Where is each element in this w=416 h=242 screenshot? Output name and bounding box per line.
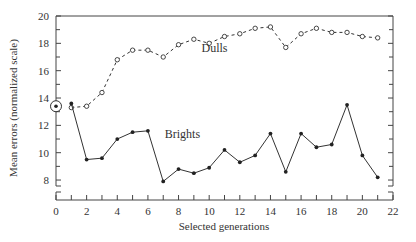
series-line (71, 103, 377, 181)
y-tick-label: 14 (38, 92, 50, 104)
series-label: Brights (165, 127, 201, 141)
data-point (253, 26, 257, 30)
data-point (330, 30, 334, 34)
data-point (238, 32, 242, 36)
data-point (223, 148, 227, 152)
data-point (268, 25, 272, 29)
x-axis-title: Selected generations (179, 220, 270, 232)
x-tick-label: 6 (145, 205, 151, 217)
y-tick-label: 10 (38, 147, 50, 159)
data-point (299, 132, 303, 136)
data-point (69, 102, 73, 106)
series-brights: Brights (69, 102, 379, 184)
y-tick-label: 8 (44, 174, 50, 186)
x-tick-label: 4 (115, 205, 121, 217)
start-point-dot (54, 104, 58, 108)
x-tick-label: 0 (53, 205, 59, 217)
data-point (177, 167, 181, 171)
x-tick-label: 12 (234, 205, 245, 217)
x-axis: 0246810121416182022 (53, 195, 398, 217)
data-point (100, 90, 104, 94)
data-point (192, 37, 196, 41)
data-point (146, 129, 150, 133)
x-tick-label: 20 (357, 205, 369, 217)
data-point (360, 34, 364, 38)
data-point (375, 36, 379, 40)
data-point (131, 130, 135, 134)
data-point (130, 48, 134, 52)
data-point (269, 132, 273, 136)
series-group: DullsBrights (51, 25, 380, 184)
y-tick-label: 18 (38, 37, 50, 49)
data-point (115, 58, 119, 62)
series-dulls: Dulls (69, 25, 380, 110)
data-point (299, 32, 303, 36)
data-point (284, 45, 288, 49)
data-point (314, 26, 318, 30)
x-tick-label: 14 (265, 205, 277, 217)
y-tick-label: 16 (38, 65, 50, 77)
data-point (176, 43, 180, 47)
data-point (360, 154, 364, 158)
y-tick-label: 20 (38, 10, 50, 22)
data-point (238, 160, 242, 164)
data-point (345, 103, 349, 107)
data-point (207, 166, 211, 170)
x-tick-label: 16 (296, 205, 308, 217)
data-point (284, 170, 288, 174)
data-point (146, 48, 150, 52)
data-point (253, 154, 257, 158)
data-point (376, 175, 380, 179)
x-tick-label: 2 (84, 205, 90, 217)
data-point (192, 171, 196, 175)
line-chart: 8101214161820 0246810121416182022 DullsB… (0, 0, 416, 242)
x-tick-label: 22 (388, 205, 399, 217)
data-point (315, 145, 319, 149)
y-tick-label: 12 (38, 119, 49, 131)
y-axis-title: Mean errors (normalized scale) (7, 39, 20, 177)
data-point (330, 143, 334, 147)
data-point (345, 30, 349, 34)
data-point (161, 55, 165, 59)
data-point (115, 137, 119, 141)
data-point (85, 158, 89, 162)
x-tick-label: 8 (176, 205, 182, 217)
data-point (161, 180, 165, 184)
series-label: Dulls (202, 41, 228, 55)
x-tick-label: 10 (204, 205, 216, 217)
data-point (100, 156, 104, 160)
data-point (84, 104, 88, 108)
x-tick-label: 18 (326, 205, 338, 217)
data-point (222, 34, 226, 38)
y-axis: 8101214161820 (38, 10, 393, 186)
